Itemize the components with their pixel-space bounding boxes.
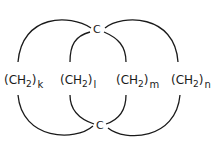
group-close: )	[32, 73, 37, 87]
bridge-index: n	[205, 79, 211, 90]
subscript: 2	[138, 79, 144, 89]
carbon-atom-top: C	[93, 24, 101, 35]
bridge-index: l	[94, 79, 97, 90]
bond-arc-m-bottom	[106, 95, 126, 124]
group-text: (CH	[60, 73, 82, 87]
bridge-label-k: (CH2)k	[4, 74, 43, 87]
bond-arc-m-top	[104, 32, 126, 62]
bond-arc-k-bottom	[18, 95, 93, 135]
subscript: 2	[193, 79, 199, 89]
carbon-atom-bottom: C	[96, 120, 104, 131]
bond-arc-n-top	[105, 20, 178, 62]
group-text: (CH	[116, 73, 138, 87]
group-text: (CH	[4, 73, 26, 87]
subscript: 2	[82, 79, 88, 89]
group-close: )	[199, 73, 204, 87]
group-close: )	[144, 73, 149, 87]
bridge-label-n: (CH2)n	[171, 74, 211, 87]
bridge-index: k	[38, 79, 44, 90]
subscript: 2	[26, 79, 32, 89]
bond-arc-k-top	[18, 20, 91, 62]
bond-arc-l-top	[70, 32, 90, 62]
bridge-label-m: (CH2)m	[116, 74, 159, 87]
bridge-label-l: (CH2)l	[60, 74, 96, 87]
bond-arc-l-bottom	[70, 95, 94, 124]
group-text: (CH	[171, 73, 193, 87]
bridge-index: m	[150, 79, 160, 90]
group-close: )	[88, 73, 93, 87]
